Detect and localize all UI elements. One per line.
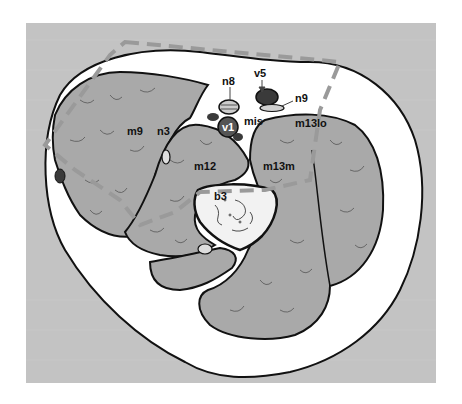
vessel-small-left [207, 113, 219, 121]
label-n9: n9 [295, 92, 308, 104]
label-m9: m9 [127, 125, 143, 137]
label-v5: v5 [254, 67, 266, 79]
vessel-left-edge [55, 169, 65, 183]
label-m13lo: m13lo [295, 117, 327, 129]
label-mis: mis [244, 115, 263, 127]
label-m13m: m13m [263, 160, 295, 172]
label-b3: b3 [214, 190, 227, 202]
label-n3: n3 [157, 125, 170, 137]
label-n8: n8 [222, 75, 235, 87]
nerve-n9 [260, 105, 284, 112]
vessel-v5 [256, 89, 278, 105]
nerve-n8 [219, 100, 239, 114]
vessel-lower [198, 244, 212, 254]
label-v1: v1 [222, 121, 234, 133]
label-m12: m12 [194, 160, 216, 172]
vessel-small-bottom [233, 133, 243, 141]
anatomical-cross-section-diagram: n8 v5 n9 v1 mis m13lo m9 n3 m12 m13m b3 [0, 0, 462, 404]
nerve-n3 [162, 150, 170, 164]
